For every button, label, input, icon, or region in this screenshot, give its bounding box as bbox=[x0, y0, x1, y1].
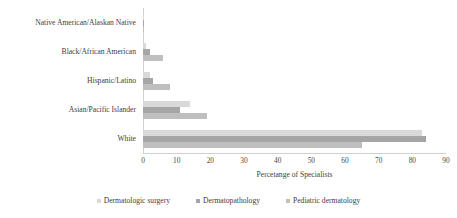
chart-legend: Dermatologic surgeryDermatopathologyPedi… bbox=[0, 196, 457, 205]
bar-chart: Native American/Alaskan NativeBlack/Afri… bbox=[0, 0, 457, 218]
x-axis-tick-label: 60 bbox=[341, 156, 348, 166]
bar-group bbox=[143, 14, 446, 32]
x-axis-tick-label: 30 bbox=[240, 156, 247, 166]
legend-label: Dermatologic surgery bbox=[104, 196, 170, 205]
bar bbox=[143, 55, 163, 61]
category-label: Native American/Alaskan Native bbox=[0, 18, 136, 27]
category-label: Asian/Pacific Islander bbox=[0, 105, 136, 114]
legend-item: Dermatologic surgery bbox=[97, 196, 170, 205]
plot-wrapper: Native American/Alaskan NativeBlack/Afri… bbox=[0, 0, 457, 175]
bar bbox=[143, 84, 170, 90]
x-axis-title: Percetange of Specialists bbox=[143, 170, 446, 179]
bar bbox=[143, 113, 207, 119]
x-axis-line bbox=[143, 153, 446, 154]
x-axis-tick-label: 20 bbox=[207, 156, 214, 166]
x-axis-tick-labels: 0102030405060708090 bbox=[143, 156, 446, 168]
category-axis-labels: Native American/Alaskan NativeBlack/Afri… bbox=[0, 8, 140, 153]
bar-group bbox=[143, 43, 446, 61]
x-axis-tick-label: 10 bbox=[173, 156, 180, 166]
bar bbox=[143, 142, 362, 148]
legend-swatch-icon bbox=[196, 199, 200, 203]
category-label: White bbox=[0, 134, 136, 143]
category-label: Black/African American bbox=[0, 47, 136, 56]
bar bbox=[143, 26, 144, 32]
bar-group bbox=[143, 130, 446, 148]
x-axis-tick-label: 80 bbox=[409, 156, 416, 166]
bar-group bbox=[143, 101, 446, 119]
x-axis-tick-label: 90 bbox=[442, 156, 449, 166]
x-axis-tick-label: 70 bbox=[375, 156, 382, 166]
legend-label: Pediatric dermatology bbox=[293, 196, 360, 205]
category-label: Hispanic/Latino bbox=[0, 76, 136, 85]
plot-area bbox=[143, 8, 446, 153]
legend-swatch-icon bbox=[286, 199, 290, 203]
legend-item: Pediatric dermatology bbox=[286, 196, 360, 205]
x-axis-tick-label: 40 bbox=[274, 156, 281, 166]
x-axis-tick-label: 50 bbox=[308, 156, 315, 166]
x-axis-tick-label: 0 bbox=[141, 156, 145, 166]
legend-item: Dermatopathology bbox=[196, 196, 260, 205]
bar-group bbox=[143, 72, 446, 90]
legend-label: Dermatopathology bbox=[203, 196, 260, 205]
legend-swatch-icon bbox=[97, 199, 101, 203]
